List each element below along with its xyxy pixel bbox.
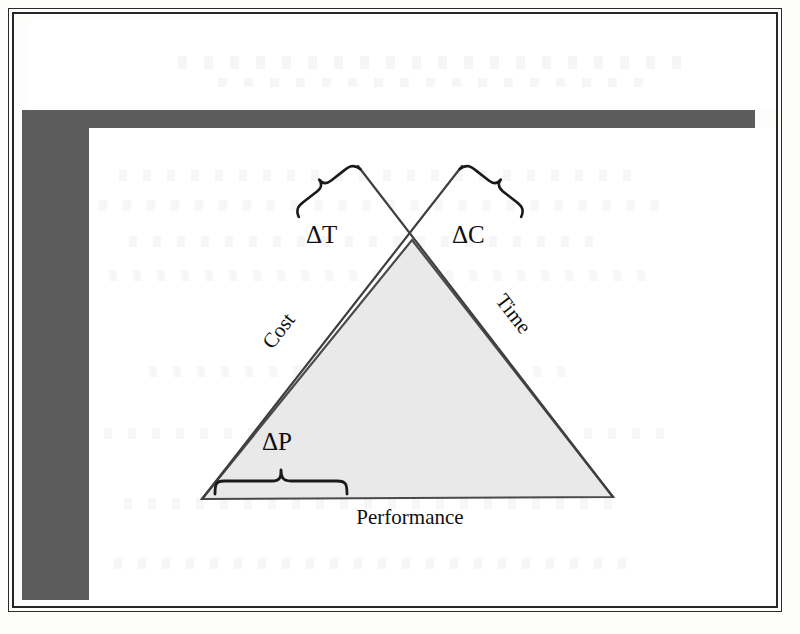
- scan-bleed-line-1: [178, 56, 698, 69]
- decorative-band-left: [22, 110, 89, 600]
- header-panel: [28, 22, 776, 110]
- scanned-page: ΔT ΔC ΔP Cost Time Performance: [0, 0, 800, 634]
- figure-panel: [89, 128, 776, 600]
- scan-bleed-line-2: [218, 78, 648, 87]
- decorative-band-top: [22, 110, 755, 128]
